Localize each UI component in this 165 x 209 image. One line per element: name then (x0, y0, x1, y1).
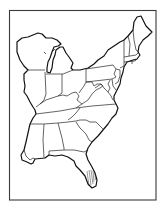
eastern-us-outline-map (0, 0, 165, 209)
map-container (0, 0, 165, 209)
